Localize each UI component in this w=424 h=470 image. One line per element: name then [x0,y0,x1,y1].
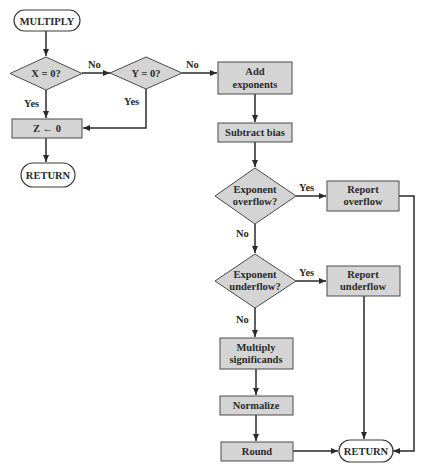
node-process-round: Round [221,442,293,461]
svg-text:Subtract bias: Subtract bias [225,127,285,138]
svg-text:RETURN: RETURN [344,446,389,457]
node-start-multiply: MULTIPLY [14,10,80,31]
svg-text:Multiply: Multiply [236,342,276,353]
svg-text:significands: significands [229,354,282,365]
svg-text:overflow: overflow [343,196,382,207]
node-return-right: RETURN [339,440,393,462]
svg-text:Normalize: Normalize [233,400,280,411]
node-process-report-underflow: Report underflow [327,266,400,296]
node-decision-x-zero: X = 0? [10,57,82,90]
svg-text:Report: Report [347,269,379,280]
node-process-multiply-significands: Multiply significands [220,338,293,369]
edge-label-y-no: No [186,59,199,70]
edge-label-x-no: No [88,59,101,70]
node-decision-underflow: Exponent underflow? [215,254,296,308]
svg-text:exponents: exponents [233,79,278,90]
arrow-y-yes [83,89,146,128]
node-process-z-zero: Z ← 0 [12,119,82,138]
svg-text:Z ← 0: Z ← 0 [33,123,61,134]
svg-text:Y = 0?: Y = 0? [132,68,161,79]
edge-label-underflow-no: No [236,314,249,325]
edge-label-underflow-yes: Yes [299,267,314,278]
svg-text:underflow: underflow [340,281,387,292]
edge-label-y-yes: Yes [124,96,139,107]
edge-label-overflow-no: No [236,228,249,239]
edge-label-overflow-yes: Yes [299,182,314,193]
svg-text:RETURN: RETURN [26,170,71,181]
svg-text:X = 0?: X = 0? [31,68,60,79]
node-process-normalize: Normalize [220,396,293,415]
node-process-subtract-bias: Subtract bias [218,123,292,142]
svg-text:underflow?: underflow? [229,281,280,292]
flowchart: No Yes No Yes Yes No Yes No MULTIPLY X =… [0,0,424,470]
svg-text:Exponent: Exponent [233,269,277,280]
svg-text:Exponent: Exponent [233,184,277,195]
svg-text:Round: Round [242,446,273,457]
arrow-overflow-report-to-return [393,196,414,451]
node-decision-y-zero: Y = 0? [110,57,182,89]
svg-text:MULTIPLY: MULTIPLY [20,16,75,27]
node-decision-overflow: Exponent overflow? [215,168,296,224]
node-return-left: RETURN [21,163,75,187]
node-process-report-overflow: Report overflow [327,181,399,211]
svg-text:overflow?: overflow? [233,196,277,207]
svg-text:Report: Report [347,184,379,195]
edge-label-x-yes: Yes [24,98,39,109]
node-process-add-exponents: Add exponents [218,62,292,94]
svg-text:Add: Add [245,66,264,77]
